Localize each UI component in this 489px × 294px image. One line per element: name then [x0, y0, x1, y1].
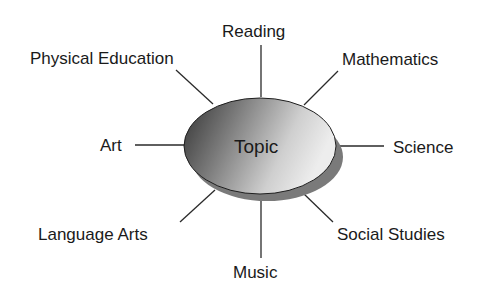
connector-mathematics [304, 71, 338, 105]
connector-physical-education [176, 70, 213, 104]
branch-label-reading: Reading [222, 23, 285, 40]
branch-label-art: Art [100, 137, 122, 154]
connector-language-arts [180, 190, 215, 222]
topic-web-diagram: Topic Reading Mathematics Science Social… [0, 0, 489, 294]
branch-label-language-arts: Language Arts [38, 226, 148, 243]
branch-label-music: Music [233, 264, 277, 281]
topic-label: Topic [234, 137, 278, 156]
branch-label-social-studies: Social Studies [337, 226, 445, 243]
branch-label-physical-education: Physical Education [30, 50, 174, 67]
branch-label-mathematics: Mathematics [342, 51, 438, 68]
connector-social-studies [304, 194, 333, 222]
branch-label-science: Science [393, 139, 453, 156]
